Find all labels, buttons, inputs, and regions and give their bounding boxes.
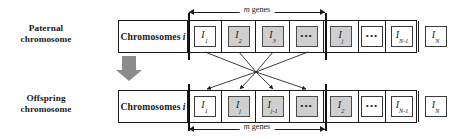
crossover-source-Ij — [256, 52, 308, 72]
paternal-label-line2: chromosome — [0, 34, 92, 45]
segment-boundary-left-top — [188, 13, 190, 60]
offspring-gene-symbol-0: I1 — [201, 100, 207, 112]
offspring-gene-symbol-2: Ij-1 — [267, 100, 277, 112]
paternal-title-index: i — [181, 31, 186, 42]
paternal-title-cell: Chromosomesi — [119, 21, 188, 52]
paternal-gene-symbol-7: IN — [432, 30, 439, 42]
offspring-gene-2: Ij-1 — [262, 96, 284, 117]
offspring-gene-cell-0: I1 — [188, 91, 222, 122]
crossover-source-I2 — [205, 52, 256, 72]
ellipsis-icon: ••• — [300, 31, 312, 41]
paternal-gene-cell-4: Ij — [324, 21, 359, 52]
paternal-gene-cell-3: ••• — [290, 21, 324, 52]
paternal-chromosome-label: Paternal chromosome — [0, 23, 92, 44]
offspring-title-index: i — [181, 101, 186, 112]
paternal-gene-7: IN — [425, 26, 447, 47]
paternal-title-text: Chromosomes — [121, 31, 181, 42]
offspring-gene-cell-1: Ij — [222, 91, 256, 122]
offspring-title-text: Chromosomes — [121, 101, 181, 112]
ellipsis-icon: ••• — [300, 101, 312, 111]
offspring-gene-6: IN-1 — [391, 96, 413, 117]
crossover-target-I2 — [256, 72, 306, 89]
ellipsis-icon: ••• — [366, 101, 378, 111]
offspring-chromosome-strip: ChromosomesiI1IjIj-1•••I2•••IN-1IN — [118, 90, 417, 123]
paternal-chromosome-strip: ChromosomesiI1I2I3•••Ij•••IN-1IN — [118, 20, 417, 53]
genes-word: genes — [250, 5, 271, 14]
segment-boundary-right-bottom — [325, 84, 327, 131]
crossover-source-I3 — [239, 52, 256, 72]
segment-boundary-left-bottom — [188, 84, 190, 131]
crossover-target-Ij — [207, 72, 256, 89]
arrow-left-icon — [189, 9, 194, 15]
segment-boundary-right-top — [325, 13, 327, 60]
paternal-gene-subscript-6: N-1 — [399, 38, 408, 44]
paternal-gene-cell-5: ••• — [359, 21, 386, 52]
offspring-gene-cell-2: Ij-1 — [256, 91, 290, 122]
offspring-gene-cell-7: IN — [419, 91, 451, 122]
genes-word: genes — [250, 122, 271, 131]
paternal-gene-subscript-1: 2 — [239, 38, 242, 44]
paternal-gene-cell-2: I3 — [256, 21, 290, 52]
offspring-gene-symbol-1: Ij — [236, 100, 241, 112]
offspring-gene-5: ••• — [361, 96, 383, 117]
paternal-gene-6: IN-1 — [391, 26, 413, 47]
offspring-gene-1: Ij — [228, 96, 250, 117]
offspring-gene-cell-5: ••• — [359, 91, 386, 122]
offspring-gene-symbol-6: IN-1 — [396, 100, 408, 112]
paternal-gene-symbol-4: Ij — [338, 30, 343, 42]
paternal-gene-cell-1: I2 — [222, 21, 256, 52]
offspring-title-cell: Chromosomesi — [119, 91, 188, 122]
offspring-gene-symbol-4: I2 — [338, 100, 344, 112]
offspring-gene-7: IN — [425, 96, 447, 117]
paternal-gene-3: ••• — [296, 26, 318, 47]
paternal-label-line1: Paternal — [0, 23, 92, 34]
offspring-gene-3: ••• — [296, 96, 318, 117]
m-genes-text-top: m genes — [240, 5, 275, 14]
paternal-gene-cell-6: IN-1 — [386, 21, 419, 52]
paternal-gene-subscript-7: N — [435, 38, 439, 44]
offspring-gene-0: I1 — [194, 96, 216, 117]
offspring-gene-subscript-0: 1 — [205, 108, 208, 114]
paternal-gene-4: Ij — [330, 26, 352, 47]
crossover-source-ellipsis — [256, 52, 273, 72]
paternal-gene-symbol-0: I1 — [201, 30, 207, 42]
m-genes-measure-top: m genes — [189, 7, 325, 18]
m-genes-measure-bottom: m genes — [189, 124, 325, 135]
paternal-gene-symbol-1: I2 — [235, 30, 241, 42]
ellipsis-icon: ••• — [366, 31, 378, 41]
transition-down-arrow-icon — [116, 56, 142, 81]
offspring-gene-cell-4: I2 — [324, 91, 359, 122]
offspring-gene-subscript-6: N-1 — [399, 108, 408, 114]
offspring-gene-subscript-4: 2 — [341, 108, 344, 114]
paternal-gene-2: I3 — [262, 26, 284, 47]
offspring-gene-4: I2 — [330, 96, 352, 117]
crossover-lines — [205, 52, 308, 89]
paternal-gene-subscript-0: 1 — [205, 38, 208, 44]
paternal-gene-subscript-2: 3 — [273, 38, 276, 44]
offspring-label-line2: chromosome — [0, 104, 92, 115]
offspring-gene-subscript-2: j-1 — [271, 108, 278, 114]
offspring-gene-symbol-7: IN — [432, 100, 439, 112]
paternal-gene-0: I1 — [194, 26, 216, 47]
paternal-gene-1: I2 — [228, 26, 250, 47]
paternal-gene-cell-7: IN — [419, 21, 451, 52]
paternal-gene-cell-0: I1 — [188, 21, 222, 52]
paternal-gene-symbol-6: IN-1 — [396, 30, 408, 42]
arrow-left-icon — [189, 126, 194, 132]
offspring-chromosome-label: Offspring chromosome — [0, 93, 92, 114]
offspring-gene-subscript-7: N — [435, 108, 439, 114]
paternal-gene-5: ••• — [361, 26, 383, 47]
crossover-target-ellipsis — [256, 72, 273, 89]
offspring-gene-subscript-1: j — [239, 108, 241, 114]
paternal-gene-symbol-2: I3 — [269, 30, 275, 42]
offspring-label-line1: Offspring — [0, 93, 92, 104]
offspring-gene-cell-6: IN-1 — [386, 91, 419, 122]
paternal-gene-subscript-4: j — [342, 38, 344, 44]
offspring-gene-cell-3: ••• — [290, 91, 324, 122]
m-genes-text-bottom: m genes — [240, 122, 275, 131]
crossover-target-Ijm1 — [240, 72, 256, 89]
